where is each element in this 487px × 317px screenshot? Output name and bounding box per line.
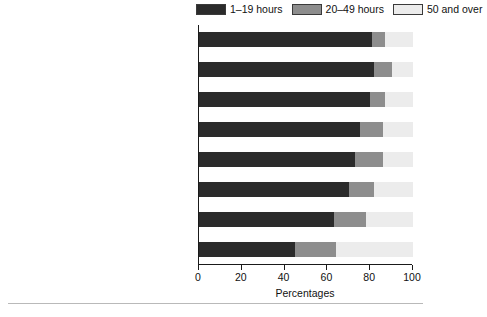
legend-swatch-icon-1-19-hours [196, 4, 226, 15]
bar-segment [385, 32, 413, 47]
bar-segment [199, 242, 295, 257]
legend-item-20-49-hours: 20–49 hours [292, 4, 384, 15]
bar-segment [336, 242, 413, 257]
chart-legend: 1–19 hours 20–49 hours 50 and over [196, 2, 487, 16]
bar-segment [199, 62, 374, 77]
bar-segment [334, 212, 366, 227]
bar-segment [355, 152, 383, 167]
x-axis-tick-label: 0 [195, 271, 201, 283]
bar-segment [199, 152, 355, 167]
bar-segment [199, 32, 372, 47]
x-axis-tick [326, 265, 327, 270]
x-axis-tick-label: 80 [363, 271, 375, 283]
bar-row [199, 242, 412, 257]
bar-row [199, 32, 412, 47]
legend-swatch-icon-20-49-hours [292, 4, 322, 15]
bar-segment [199, 122, 360, 137]
bar-segment [360, 122, 384, 137]
bar-segment [383, 152, 413, 167]
bar-segment [199, 212, 334, 227]
bar-row [199, 152, 412, 167]
legend-swatch-icon-50-and-over [393, 4, 423, 15]
bar-row [199, 212, 412, 227]
bar-segment [370, 92, 385, 107]
bar-row [199, 62, 412, 77]
bar-row [199, 122, 412, 137]
x-axis-tick [369, 265, 370, 270]
x-axis-tick-label: 100 [403, 271, 421, 283]
legend-label-1-19-hours: 1–19 hours [230, 4, 283, 15]
bar-segment [295, 242, 336, 257]
bar-segment [374, 62, 391, 77]
legend-label-50-and-over: 50 and over [427, 4, 482, 15]
bar-segment [374, 182, 413, 197]
x-axis-tick [284, 265, 285, 270]
legend-label-20-49-hours: 20–49 hours [326, 4, 384, 15]
bar-segment [199, 92, 370, 107]
x-axis-tick [241, 265, 242, 270]
bar-segment [392, 62, 413, 77]
bar-segment [385, 92, 413, 107]
caption-divider [8, 303, 423, 304]
plot-area: Higher managerial and professionalLower … [198, 25, 412, 265]
bar-segment [199, 182, 349, 197]
x-axis-tick [198, 265, 199, 270]
legend-item-50-and-over: 50 and over [393, 4, 482, 15]
x-axis-tick-label: 20 [235, 271, 247, 283]
x-axis-title: Percentages [198, 287, 412, 299]
bar-segment [372, 32, 385, 47]
bar-segment [383, 122, 413, 137]
bar-segment [366, 212, 413, 227]
x-axis-tick-label: 60 [321, 271, 333, 283]
bar-segment [349, 182, 375, 197]
bar-row [199, 182, 412, 197]
legend-item-1-19-hours: 1–19 hours [196, 4, 283, 15]
bar-row [199, 92, 412, 107]
x-axis-tick [412, 265, 413, 270]
x-axis-tick-label: 40 [278, 271, 290, 283]
